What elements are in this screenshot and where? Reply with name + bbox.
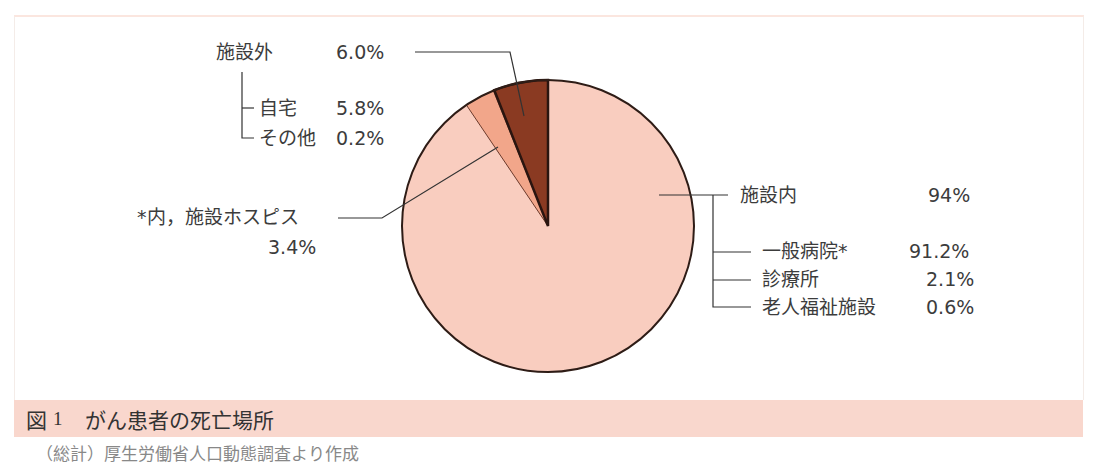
value-home: 5.8%: [336, 99, 384, 118]
value-nursing-home: 0.6%: [926, 298, 974, 317]
value-inside: 94%: [928, 186, 970, 205]
value-outside: 6.0%: [336, 43, 384, 62]
value-other: 0.2%: [336, 129, 384, 148]
label-inside: 施設内: [740, 186, 797, 205]
label-clinic: 診療所: [762, 270, 819, 289]
label-home: 自宅: [259, 99, 297, 118]
figure-title: がん患者の死亡場所: [85, 404, 274, 434]
figure-label: 図: [26, 404, 47, 434]
bracket-inside: [713, 195, 751, 307]
figure-caption: 図 1 がん患者の死亡場所: [14, 400, 1083, 437]
figure-number: 1: [53, 408, 63, 430]
label-outside: 施設外: [216, 43, 273, 62]
label-hospice: *内，施設ホスピス: [137, 208, 299, 227]
value-general-hospital: 91.2%: [909, 242, 969, 261]
value-hospice: 3.4%: [268, 238, 316, 257]
label-other: その他: [259, 129, 316, 148]
label-nursing-home: 老人福祉施設: [762, 298, 876, 317]
footnote-clipped: （総計）厚生労働省人口動態調査より作成: [36, 440, 359, 465]
label-general-hospital: 一般病院*: [762, 242, 848, 261]
value-clinic: 2.1%: [926, 270, 974, 289]
bracket-outside: [242, 72, 254, 138]
